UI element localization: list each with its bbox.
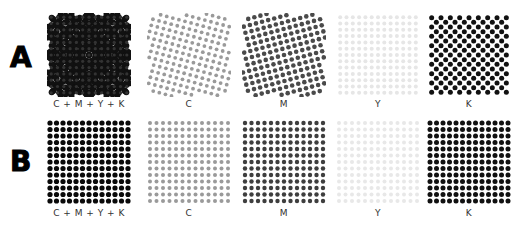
panel-b-y xyxy=(336,120,420,204)
caption-a-cmyk: C + M + Y + K xyxy=(47,99,131,109)
caption-b-y: Y xyxy=(336,208,420,218)
caption-b-k: K xyxy=(427,208,511,218)
panel-a-y xyxy=(336,13,420,97)
caption-a-c: C xyxy=(147,99,231,109)
panel-b-cmyk xyxy=(47,120,131,204)
caption-a-m: M xyxy=(242,99,326,109)
caption-a-y: Y xyxy=(336,99,420,109)
caption-a-k: K xyxy=(427,99,511,109)
caption-b-m: M xyxy=(242,208,326,218)
row-label-b: B xyxy=(10,148,31,176)
caption-b-cmyk: C + M + Y + K xyxy=(47,208,131,218)
panel-b-m xyxy=(242,120,326,204)
panel-b-k xyxy=(427,120,511,204)
panel-a-m xyxy=(242,13,326,97)
row-label-a: A xyxy=(10,44,32,72)
panel-a-c xyxy=(147,13,231,97)
caption-b-c: C xyxy=(147,208,231,218)
panel-a-cmyk xyxy=(47,13,131,97)
panel-a-k xyxy=(427,13,511,97)
panel-b-c xyxy=(147,120,231,204)
